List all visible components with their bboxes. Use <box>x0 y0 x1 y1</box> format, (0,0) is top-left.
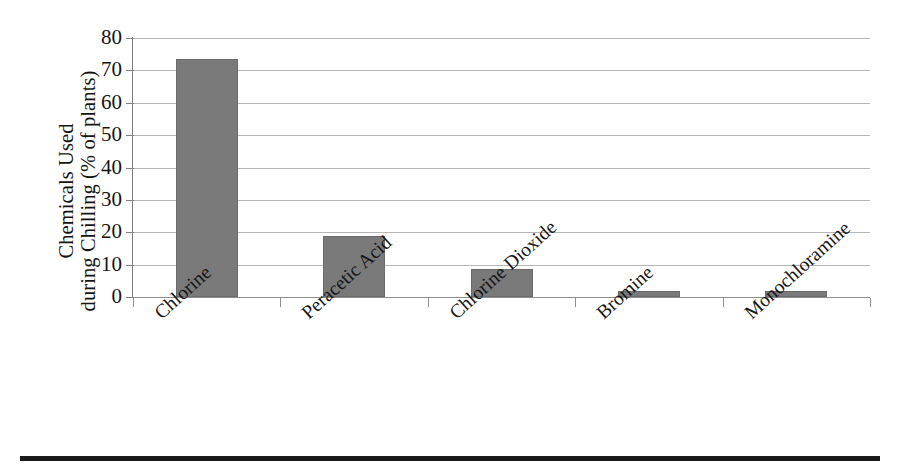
y-tick-mark-80 <box>126 38 134 39</box>
y-tick-mark-70 <box>126 70 134 71</box>
y-tick-label-30: 30 <box>76 189 122 210</box>
bar-chart-figure: Chemicals Used during Chilling (% of pla… <box>0 0 903 468</box>
gridline-80 <box>133 38 870 39</box>
y-tick-mark-30 <box>126 200 134 201</box>
gridline-20 <box>133 232 870 233</box>
y-tick-mark-60 <box>126 103 134 104</box>
y-tick-mark-40 <box>126 168 134 169</box>
gridline-70 <box>133 70 870 71</box>
x-tick-mark-2 <box>428 298 429 307</box>
bottom-rule <box>20 456 880 461</box>
y-tick-label-40: 40 <box>76 157 122 178</box>
gridline-60 <box>133 103 870 104</box>
y-tick-label-0: 0 <box>76 286 122 307</box>
y-tick-label-60: 60 <box>76 92 122 113</box>
x-tick-mark-3 <box>575 298 576 307</box>
bar-chlorine[interactable] <box>176 59 238 297</box>
y-tick-mark-20 <box>126 232 134 233</box>
y-axis-title-line-1: Chemicals Used <box>56 123 78 258</box>
gridline-30 <box>133 200 870 201</box>
x-tick-mark-4 <box>723 298 724 307</box>
y-tick-label-20: 20 <box>76 221 122 242</box>
y-tick-mark-0 <box>126 297 134 298</box>
y-tick-label-50: 50 <box>76 124 122 145</box>
y-tick-label-70: 70 <box>76 59 122 80</box>
y-tick-label-10: 10 <box>76 254 122 275</box>
x-tick-mark-0 <box>133 298 134 307</box>
y-axis-tick-labels: 01020304050607080 <box>76 0 122 468</box>
x-tick-mark-1 <box>280 298 281 307</box>
gridline-40 <box>133 168 870 169</box>
y-tick-mark-10 <box>126 265 134 266</box>
y-tick-label-80: 80 <box>76 27 122 48</box>
gridline-50 <box>133 135 870 136</box>
y-tick-mark-50 <box>126 135 134 136</box>
x-tick-mark-end <box>870 298 871 307</box>
